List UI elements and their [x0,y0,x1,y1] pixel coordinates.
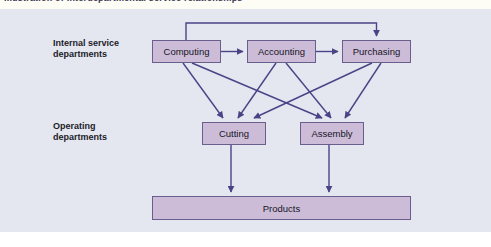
row-label-operating-line1: Operating [53,121,96,131]
arrow-purchasing-to-cutting [254,63,372,118]
row-label-operating-departments: Operating departments [53,121,107,143]
arrow-accounting-to-assembly [286,63,331,118]
row-label-internal-service-departments: Internal service departments [53,38,119,60]
row-label-internal-line1: Internal service [53,38,119,48]
node-cutting: Cutting [202,122,266,145]
node-accounting: Accounting [247,40,316,63]
arrow-computing-to-cutting [183,63,223,118]
node-assembly: Assembly [300,122,364,145]
node-products: Products [152,196,411,220]
arrow-computing-to-purchasing-feedback [186,23,377,40]
node-computing: Computing [152,40,221,63]
row-label-operating-line2: departments [53,132,107,142]
node-purchasing: Purchasing [342,40,411,63]
row-label-internal-line2: departments [53,49,107,59]
figure-container: Illustration of interdepartmental servic… [0,0,491,247]
arrow-purchasing-to-assembly [345,63,381,118]
